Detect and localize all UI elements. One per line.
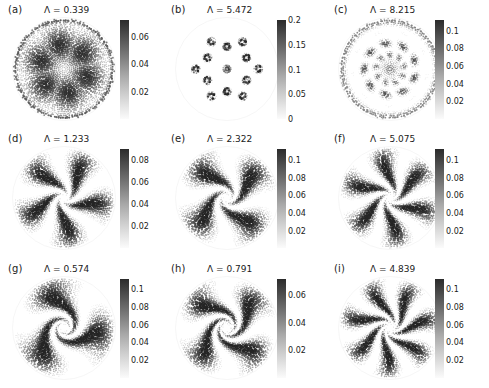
panel-title-e: Λ = 2.322 bbox=[207, 134, 252, 144]
colorbar-tick-label: 0.05 bbox=[288, 90, 306, 99]
panel-c: (c)Λ = 8.2150.020.040.060.080.1 bbox=[326, 0, 489, 129]
colorbar-tick-label: 0.06 bbox=[131, 32, 149, 41]
colorbar-tick-label: 0 bbox=[288, 115, 293, 124]
colorbar-gradient-d bbox=[120, 149, 129, 248]
colorbar-gradient-f bbox=[435, 149, 444, 248]
panel-title-h: Λ = 0.791 bbox=[207, 264, 252, 274]
panel-label-e: (e) bbox=[171, 133, 185, 144]
panel-h: (h)Λ = 0.7910.020.040.06 bbox=[163, 259, 326, 388]
colorbar-h: 0.020.040.06 bbox=[277, 279, 286, 378]
colorbar-tick-label: 0.04 bbox=[131, 338, 149, 347]
panel-b: (b)Λ = 5.47200.050.10.150.2 bbox=[163, 0, 326, 129]
colorbar-a: 0.020.040.06 bbox=[120, 20, 129, 119]
colorbar-tick-label: 0.04 bbox=[446, 208, 464, 217]
disk-plot-e bbox=[175, 146, 279, 250]
colorbar-tick-label: 0.06 bbox=[446, 191, 464, 200]
panel-a: (a)Λ = 0.3390.020.040.06 bbox=[0, 0, 163, 129]
colorbar-tick-label: 0.02 bbox=[446, 226, 464, 235]
colorbar-f: 0.020.040.060.080.1 bbox=[435, 149, 444, 248]
colorbar-g: 0.020.040.060.080.1 bbox=[120, 279, 129, 378]
colorbar-tick-label: 0.1 bbox=[446, 155, 459, 164]
colorbar-gradient-g bbox=[120, 279, 129, 378]
colorbar-tick-label: 0.04 bbox=[288, 318, 306, 327]
panel-title-b: Λ = 5.472 bbox=[207, 5, 252, 15]
panel-f: (f)Λ = 5.0750.020.040.060.080.1 bbox=[326, 129, 489, 258]
colorbar-tick-label: 0.1 bbox=[288, 155, 301, 164]
panel-title-d: Λ = 1.233 bbox=[44, 134, 89, 144]
colorbar-tick-label: 0.08 bbox=[288, 173, 306, 182]
colorbar-tick-label: 0.04 bbox=[446, 338, 464, 347]
disk-plot-g bbox=[12, 276, 116, 380]
colorbar-tick-label: 0.08 bbox=[446, 173, 464, 182]
panel-label-d: (d) bbox=[8, 133, 22, 144]
colorbar-ticks-f: 0.020.040.060.080.1 bbox=[446, 149, 489, 248]
panel-title-f: Λ = 5.075 bbox=[370, 134, 415, 144]
panel-label-a: (a) bbox=[8, 4, 22, 15]
colorbar-tick-label: 0.04 bbox=[131, 60, 149, 69]
panel-label-h: (h) bbox=[171, 263, 185, 274]
colorbar-gradient-c bbox=[435, 20, 444, 119]
disk-plot-a bbox=[12, 17, 116, 121]
colorbar-tick-label: 0.08 bbox=[446, 302, 464, 311]
panel-e: (e)Λ = 2.3220.020.040.060.080.1 bbox=[163, 129, 326, 258]
colorbar-tick-label: 0.06 bbox=[446, 320, 464, 329]
figure-canvas: (a)Λ = 0.3390.020.040.06(b)Λ = 5.47200.0… bbox=[0, 0, 489, 388]
colorbar-e: 0.020.040.060.080.1 bbox=[277, 149, 286, 248]
colorbar-d: 0.020.040.060.08 bbox=[120, 149, 129, 248]
colorbar-tick-label: 0.04 bbox=[131, 200, 149, 209]
panel-g: (g)Λ = 0.5740.020.040.060.080.1 bbox=[0, 259, 163, 388]
panel-title-i: Λ = 4.839 bbox=[370, 264, 415, 274]
panel-label-i: (i) bbox=[334, 263, 345, 274]
colorbar-gradient-i bbox=[435, 279, 444, 378]
colorbar-ticks-i: 0.020.040.060.080.1 bbox=[446, 279, 489, 378]
colorbar-tick-label: 0.02 bbox=[446, 355, 464, 364]
colorbar-tick-label: 0.1 bbox=[131, 285, 144, 294]
disk-plot-f bbox=[338, 146, 442, 250]
colorbar-tick-label: 0.06 bbox=[131, 178, 149, 187]
colorbar-tick-label: 0.08 bbox=[131, 302, 149, 311]
colorbar-tick-label: 0.04 bbox=[446, 79, 464, 88]
disk-plot-i bbox=[338, 276, 442, 380]
colorbar-ticks-c: 0.020.040.060.080.1 bbox=[446, 20, 489, 119]
disk-plot-d bbox=[12, 146, 116, 250]
panel-label-c: (c) bbox=[334, 4, 348, 15]
panel-label-f: (f) bbox=[334, 133, 346, 144]
colorbar-c: 0.020.040.060.080.1 bbox=[435, 20, 444, 119]
colorbar-tick-label: 0.06 bbox=[446, 62, 464, 71]
colorbar-tick-label: 0.02 bbox=[131, 222, 149, 231]
panel-label-b: (b) bbox=[171, 4, 185, 15]
colorbar-tick-label: 0.02 bbox=[288, 226, 306, 235]
disk-plot-c bbox=[338, 17, 442, 121]
colorbar-tick-label: 0.04 bbox=[288, 208, 306, 217]
colorbar-tick-label: 0.02 bbox=[131, 355, 149, 364]
colorbar-tick-label: 0.1 bbox=[288, 65, 301, 74]
colorbar-tick-label: 0.06 bbox=[288, 291, 306, 300]
colorbar-i: 0.020.040.060.080.1 bbox=[435, 279, 444, 378]
panel-i: (i)Λ = 4.8390.020.040.060.080.1 bbox=[326, 259, 489, 388]
colorbar-tick-label: 0.15 bbox=[288, 40, 306, 49]
panel-d: (d)Λ = 1.2330.020.040.060.08 bbox=[0, 129, 163, 258]
colorbar-tick-label: 0.1 bbox=[446, 285, 459, 294]
disk-plot-b bbox=[175, 17, 279, 121]
colorbar-tick-label: 0.02 bbox=[288, 346, 306, 355]
colorbar-tick-label: 0.02 bbox=[446, 97, 464, 106]
disk-plot-h bbox=[175, 276, 279, 380]
colorbar-tick-label: 0.08 bbox=[131, 156, 149, 165]
colorbar-gradient-h bbox=[277, 279, 286, 378]
colorbar-tick-label: 0.02 bbox=[131, 87, 149, 96]
colorbar-tick-label: 0.06 bbox=[131, 320, 149, 329]
colorbar-b: 00.050.10.150.2 bbox=[277, 20, 286, 119]
colorbar-tick-label: 0.2 bbox=[288, 16, 301, 25]
panel-title-a: Λ = 0.339 bbox=[44, 5, 89, 15]
colorbar-tick-label: 0.1 bbox=[446, 26, 459, 35]
panel-title-c: Λ = 8.215 bbox=[370, 5, 415, 15]
colorbar-gradient-b bbox=[277, 20, 286, 119]
colorbar-tick-label: 0.06 bbox=[288, 191, 306, 200]
panel-label-g: (g) bbox=[8, 263, 22, 274]
colorbar-gradient-e bbox=[277, 149, 286, 248]
colorbar-gradient-a bbox=[120, 20, 129, 119]
panel-title-g: Λ = 0.574 bbox=[44, 264, 89, 274]
colorbar-tick-label: 0.08 bbox=[446, 44, 464, 53]
